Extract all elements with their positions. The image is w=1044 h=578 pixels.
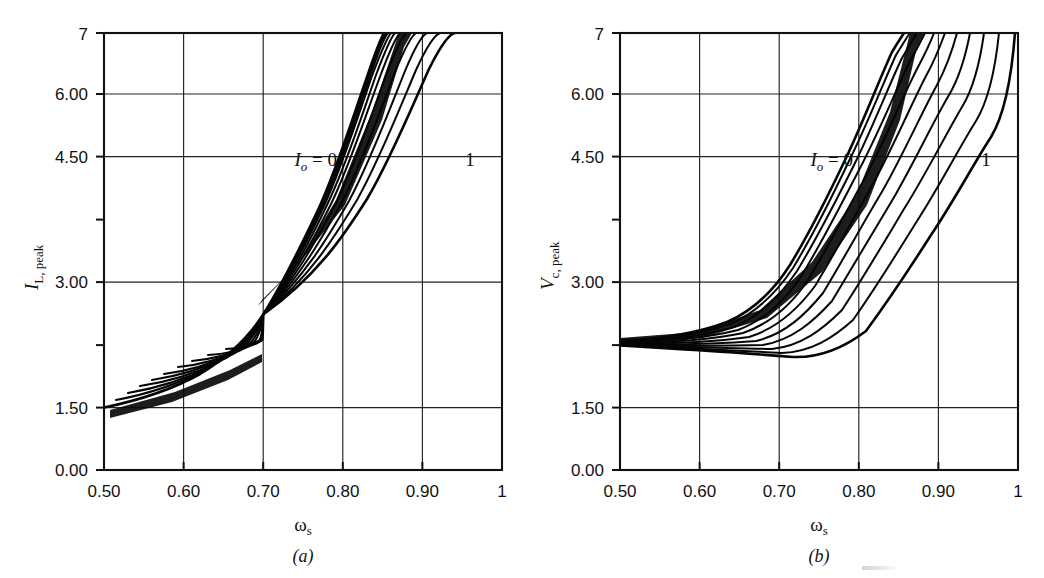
y-tickmarks-b: [612, 33, 620, 470]
y-axis-title-b: Vc, peak: [537, 241, 562, 290]
y-tick-label: 6.00: [55, 85, 88, 104]
x-tickmarks-a: [184, 462, 423, 470]
x-tick-label: 0.90: [922, 482, 955, 501]
x-axis-title-sub: s: [823, 523, 828, 538]
panel-b-plot: 0.00 1.50 3.00 4.50 6.00 7 0.50 0.60 0.7…: [522, 0, 1044, 578]
x-tick-label: 1: [497, 482, 506, 501]
y-tick-label: 4.50: [55, 148, 88, 167]
panel-b: 0.00 1.50 3.00 4.50 6.00 7 0.50 0.60 0.7…: [522, 0, 1044, 578]
panel-a-plot: 0.00 1.50 3.00 4.50 6.00 7 0.50 0.60 0.7…: [0, 0, 522, 578]
x-tickmarks-b: [700, 462, 939, 470]
panel-a: 0.00 1.50 3.00 4.50 6.00 7 0.50 0.60 0.7…: [0, 0, 522, 578]
panel-caption-a: (a): [293, 546, 314, 567]
x-tick-label: 0.50: [87, 482, 120, 501]
y-axis-title-a: IL, peak: [21, 244, 46, 291]
x-tick-label: 0.80: [326, 482, 359, 501]
x-tick-label: 0.50: [603, 482, 636, 501]
curve-family-b: [620, 33, 1015, 357]
y-tick-label: 0.00: [571, 461, 604, 480]
annotation-io-zero-a: Io = 0: [293, 149, 337, 174]
y-tickmarks-a: [96, 33, 104, 470]
y-tick-label: 0.00: [55, 461, 88, 480]
x-axis-title-a: ωs: [294, 514, 312, 538]
scan-edge-artifact: [862, 566, 896, 570]
x-tick-label: 0.90: [406, 482, 439, 501]
annotation-io-eq: = 0: [823, 149, 853, 170]
x-tick-label: 0.60: [683, 482, 716, 501]
y-tick-label: 3.00: [571, 273, 604, 292]
annotation-io-eq: = 0: [307, 149, 337, 170]
y-tick-label: 6.00: [571, 85, 604, 104]
x-axis-title-base: ω: [810, 514, 823, 535]
x-axis-title-base: ω: [294, 514, 307, 535]
x-tick-label: 1: [1013, 482, 1022, 501]
x-axis-title-b: ωs: [810, 514, 828, 538]
annotation-io-zero-b: Io = 0: [809, 149, 853, 174]
x-tick-label: 0.60: [167, 482, 200, 501]
annotation-io-one-b: 1: [981, 149, 991, 170]
figure-container: 0.00 1.50 3.00 4.50 6.00 7 0.50 0.60 0.7…: [0, 0, 1044, 578]
y-tick-label: 4.50: [571, 148, 604, 167]
y-axis-title-sub: c, peak: [547, 241, 562, 278]
y-tick-label: 7: [595, 25, 604, 44]
curve-family-a: [104, 33, 455, 418]
y-tick-label: 3.00: [55, 273, 88, 292]
x-axis-title-sub: s: [307, 523, 312, 538]
panel-caption-b: (b): [809, 546, 830, 567]
svg-text:IL, peak: IL, peak: [21, 244, 46, 291]
svg-text:Vc, peak: Vc, peak: [537, 241, 562, 290]
y-tick-label: 7: [79, 25, 88, 44]
y-axis-title-sub: L, peak: [31, 244, 46, 283]
annotation-io-one-a: 1: [465, 149, 475, 170]
x-tick-label: 0.70: [763, 482, 796, 501]
x-tick-label: 0.80: [842, 482, 875, 501]
x-tick-label: 0.70: [247, 482, 280, 501]
y-tick-label: 1.50: [571, 399, 604, 418]
y-tick-label: 1.50: [55, 399, 88, 418]
